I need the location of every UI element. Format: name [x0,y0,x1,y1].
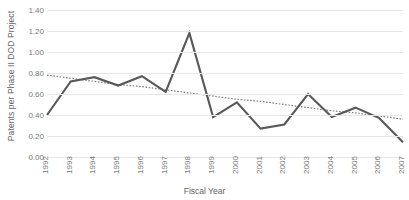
x-tick-label-text: 2001 [255,150,264,180]
gridline [47,73,403,74]
trendline-path [47,75,403,119]
x-tick-label-text: 1999 [207,150,216,180]
x-tick-label-text: 2005 [350,150,359,180]
gridline [47,10,403,11]
gridline [47,94,403,95]
x-tick-label-text: 2007 [397,150,406,180]
x-tick-label: 1993 [65,150,77,180]
x-tick-label: 1992 [41,150,53,180]
x-tick-label: 2002 [278,150,290,180]
x-tick-label-text: 1995 [112,150,121,180]
x-axis-title: Fiscal Year [0,186,409,196]
x-tick-label: 1997 [160,150,172,180]
plot-svg [47,10,403,157]
x-axis-tick-labels: 1992199319941995199619971998199920002001… [47,159,403,189]
gridline [47,115,403,116]
x-tick-label: 2007 [397,150,409,180]
x-tick-label-text: 1997 [160,150,169,180]
x-tick-label-text: 2006 [373,150,382,180]
x-tick-label: 2003 [302,150,314,180]
x-tick-label: 1994 [88,150,100,180]
x-tick-label: 1998 [183,150,195,180]
x-tick-label-text: 1992 [41,150,50,180]
y-axis-tick-labels: 1.401.201.000.800.600.400.200.00 [16,0,44,200]
x-tick-label: 1999 [207,150,219,180]
y-tick-label: 0.60 [16,90,44,99]
plot-area [47,10,403,157]
x-tick-label: 1995 [112,150,124,180]
line-chart: Patents per Phase II DOD Project 1.401.2… [0,0,409,200]
gridline [47,31,403,32]
y-tick-label: 0.80 [16,69,44,78]
y-tick-label: 1.20 [16,27,44,36]
x-tick-label-text: 2000 [231,150,240,180]
y-tick-label: 0.20 [16,132,44,141]
y-tick-label: 0.00 [16,153,44,162]
x-tick-label: 1996 [136,150,148,180]
x-tick-label-text: 2003 [302,150,311,180]
x-tick-label-text: 1994 [88,150,97,180]
x-tick-label-text: 2004 [326,150,335,180]
y-tick-label: 0.40 [16,111,44,120]
x-tick-label: 2004 [326,150,338,180]
x-tick-label: 2006 [373,150,385,180]
y-tick-label: 1.40 [16,6,44,15]
x-tick-label-text: 1993 [65,150,74,180]
y-tick-label: 1.00 [16,48,44,57]
gridline [47,52,403,53]
x-tick-label: 2001 [255,150,267,180]
x-tick-label: 2005 [350,150,362,180]
gridline [47,136,403,137]
data-series-path [47,33,403,142]
x-tick-label: 2000 [231,150,243,180]
x-tick-label-text: 1996 [136,150,145,180]
x-tick-label-text: 1998 [183,150,192,180]
x-tick-label-text: 2002 [278,150,287,180]
